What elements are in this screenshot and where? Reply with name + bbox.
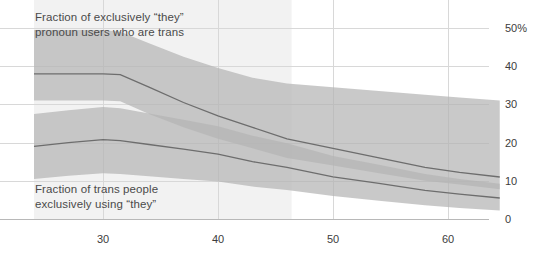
y-axis-tick-label: 50% — [505, 22, 527, 34]
x-axis-tick-label: 40 — [212, 233, 224, 245]
x-axis-tick-label: 60 — [442, 233, 454, 245]
y-axis-tick-label: 0 — [505, 213, 511, 225]
y-axis-tick-label: 30 — [505, 98, 517, 110]
annotation-upper-series: Fraction of exclusively “they” pronoun u… — [35, 10, 184, 40]
annotation-lower-series: Fraction of trans people exclusively usi… — [35, 182, 158, 212]
x-axis-tick-labels: 30405060 — [97, 233, 454, 245]
y-axis-tick-label: 20 — [505, 137, 517, 149]
chart-container: 01020304050% 30405060 Fraction of exclus… — [0, 0, 542, 260]
x-axis-tick-label: 30 — [97, 233, 109, 245]
y-axis-tick-label: 40 — [505, 60, 517, 72]
y-axis-tick-labels: 01020304050% — [505, 22, 527, 225]
y-axis-tick-label: 10 — [505, 175, 517, 187]
x-axis-tick-label: 50 — [327, 233, 339, 245]
